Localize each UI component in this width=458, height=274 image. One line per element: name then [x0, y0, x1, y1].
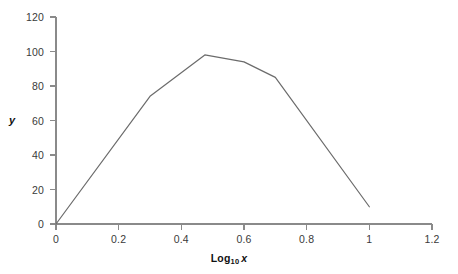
y-tick-label: 100: [10, 46, 44, 58]
y-tick-label: 80: [10, 80, 44, 92]
x-axis-title: Log10x: [0, 252, 458, 264]
y-tick-label: 40: [10, 149, 44, 161]
y-axis-ticks: [50, 17, 56, 224]
x-tick-label: 0.8: [287, 233, 327, 245]
y-tick-label: 0: [10, 218, 44, 230]
x-axis-title-subscript: 10: [231, 257, 240, 266]
data-series-line: [56, 55, 369, 224]
x-axis-title-variable: x: [241, 252, 247, 264]
y-axis-title: y: [9, 114, 15, 126]
x-tick-label: 1.2: [412, 233, 452, 245]
x-tick-label: 0.4: [161, 233, 201, 245]
x-axis-title-base: Log: [211, 252, 231, 264]
x-tick-label: 1: [349, 233, 389, 245]
line-chart: 120 100 80 60 40 20 0 0 0.2 0.4 0.6 0.8 …: [0, 0, 458, 274]
y-tick-label: 120: [10, 11, 44, 23]
axes-group: [56, 17, 432, 224]
x-tick-label: 0.2: [99, 233, 139, 245]
y-tick-label: 20: [10, 184, 44, 196]
x-tick-label: 0: [36, 233, 76, 245]
x-axis-ticks: [56, 224, 432, 230]
x-tick-label: 0.6: [224, 233, 264, 245]
